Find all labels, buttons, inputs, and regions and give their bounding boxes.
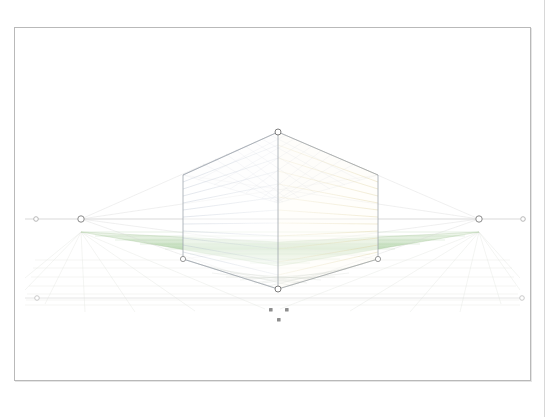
- handle-top-apex[interactable]: [275, 129, 281, 135]
- drawing-canvas[interactable]: [14, 27, 531, 381]
- ground-endpoint-left[interactable]: [35, 296, 40, 301]
- drag-handle-a[interactable]: [269, 308, 273, 312]
- drag-handle-c[interactable]: [277, 318, 281, 322]
- handle-left-corner[interactable]: [180, 256, 185, 261]
- horizon-endpoint-right[interactable]: [521, 217, 526, 222]
- handle-front-bottom[interactable]: [275, 286, 281, 292]
- drag-handle-group[interactable]: [269, 308, 289, 322]
- drag-handle-b[interactable]: [285, 308, 289, 312]
- handle-right-corner[interactable]: [375, 256, 380, 261]
- perspective-scene[interactable]: [15, 28, 530, 380]
- box-left-face: [183, 132, 278, 289]
- horizon-endpoint-left[interactable]: [34, 217, 39, 222]
- vanishing-point-left[interactable]: [78, 216, 84, 222]
- box-right-face: [278, 132, 378, 289]
- vanishing-point-right[interactable]: [476, 216, 482, 222]
- right-panel-divider: [544, 0, 545, 417]
- app-root: Perspective Grid Canvas two-point-perspe…: [0, 0, 559, 417]
- ground-endpoint-right[interactable]: [520, 296, 525, 301]
